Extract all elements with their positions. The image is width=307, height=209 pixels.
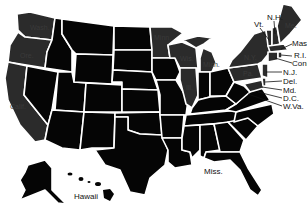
label-pennsylvania: Pa.	[243, 70, 254, 77]
us-map	[0, 0, 307, 209]
state-arizona[interactable]	[45, 110, 84, 150]
state-wyoming[interactable]	[74, 54, 113, 84]
state-vermont[interactable]	[266, 30, 272, 46]
label-hawaii: Hawaii	[74, 193, 98, 201]
label-new-york: N.Y.	[244, 54, 257, 61]
label-west-virginia: W.Va.	[283, 103, 304, 111]
label-connecticut: Conn.	[292, 60, 307, 68]
label-mississippi: Miss.	[204, 168, 223, 176]
state-new-mexico[interactable]	[80, 112, 115, 150]
state-kansas[interactable]	[122, 89, 160, 112]
label-maine: Me.	[285, 22, 297, 29]
label-california: Calif.	[10, 103, 26, 110]
state-alaska[interactable]	[20, 160, 66, 204]
state-colorado[interactable]	[84, 83, 122, 112]
label-new-jersey: N.J.	[283, 69, 297, 77]
label-minnesota: Minn.	[154, 34, 171, 41]
label-washington: Wash.	[30, 24, 50, 31]
state-connecticut[interactable]	[268, 52, 278, 62]
state-indiana[interactable]	[198, 72, 210, 100]
label-illinois: Ill.	[186, 84, 193, 91]
label-oregon: Ore.	[20, 52, 34, 59]
state-north-dakota[interactable]	[114, 26, 152, 50]
label-vermont: Vt.	[254, 21, 264, 29]
label-michigan: Mich.	[203, 61, 220, 68]
label-new-hampshire: N.H.	[267, 14, 283, 22]
state-new-jersey[interactable]	[262, 64, 268, 78]
label-wisconsin: Wis.	[180, 55, 194, 62]
label-delaware: Del.	[283, 78, 297, 86]
label-massachusetts: Mass.	[292, 40, 307, 48]
state-new-york[interactable]	[228, 30, 270, 68]
state-arkansas[interactable]	[160, 115, 184, 138]
state-michigan[interactable]	[200, 48, 216, 72]
state-massachusetts[interactable]	[268, 44, 288, 52]
state-south-dakota[interactable]	[113, 50, 152, 72]
